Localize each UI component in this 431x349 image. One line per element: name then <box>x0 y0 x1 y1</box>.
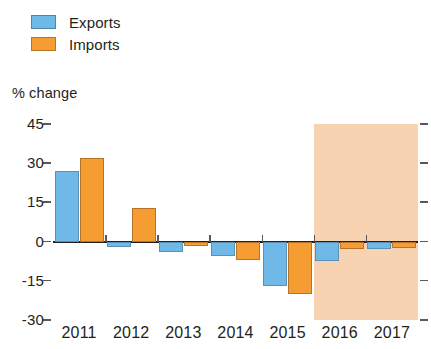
y-axis-tick-left <box>43 280 51 282</box>
legend-label-exports: Exports <box>69 15 121 30</box>
x-axis-label-2014: 2014 <box>209 324 261 342</box>
bar-exports-2017 <box>367 242 391 250</box>
legend-swatch-exports-icon <box>31 15 56 29</box>
bar-exports-2011 <box>55 171 79 242</box>
chart-legend: Exports Imports <box>31 11 231 55</box>
y-axis-tick-left <box>43 123 51 125</box>
x-axis-tick <box>209 235 211 242</box>
y-axis-tick-label: 15 <box>0 194 44 209</box>
y-axis-tick-label: 30 <box>0 155 44 170</box>
bar-imports-2011 <box>80 158 104 242</box>
bar-exports-2012 <box>107 242 131 247</box>
x-axis-labels: 2011201220132014201520162017 <box>53 324 418 346</box>
y-axis-title: % change <box>12 86 77 101</box>
legend-item-imports: Imports <box>31 33 231 55</box>
x-axis-tick <box>157 235 159 242</box>
y-axis-tick-right <box>420 319 428 321</box>
x-axis-label-2016: 2016 <box>314 324 366 342</box>
x-axis-label-2011: 2011 <box>53 324 105 342</box>
bar-imports-2014 <box>236 242 260 260</box>
forecast-shaded-region <box>314 124 418 320</box>
x-axis-tick <box>262 235 264 242</box>
y-axis-tick-label: 0 <box>0 234 44 249</box>
x-axis-label-2013: 2013 <box>157 324 209 342</box>
x-axis-label-2012: 2012 <box>105 324 157 342</box>
plot-area: 4530150-15-30 <box>53 120 418 320</box>
x-axis-tick <box>314 235 316 242</box>
legend-item-exports: Exports <box>31 11 231 33</box>
legend-label-imports: Imports <box>69 37 120 52</box>
bar-imports-2015 <box>288 242 312 294</box>
bar-imports-2016 <box>340 242 364 250</box>
bar-exports-2013 <box>159 242 183 252</box>
x-axis-tick <box>105 235 107 242</box>
y-axis-tick-right <box>420 241 428 243</box>
bar-chart: Exports Imports % change 4530150-15-30 2… <box>0 0 431 349</box>
y-axis-tick-right <box>420 280 428 282</box>
bar-imports-2012 <box>132 208 156 242</box>
bar-imports-2017 <box>392 242 416 249</box>
x-axis-tick <box>366 235 368 242</box>
y-axis-tick-label: -15 <box>0 273 44 288</box>
y-axis-tick-right <box>420 162 428 164</box>
y-axis-tick-label: 45 <box>0 116 44 131</box>
x-axis-label-2015: 2015 <box>262 324 314 342</box>
y-axis-tick-left <box>43 162 51 164</box>
y-axis-tick-label: -30 <box>0 312 44 327</box>
y-axis-tick-left <box>43 241 51 243</box>
y-axis-tick-right <box>420 201 428 203</box>
y-axis-tick-left <box>43 319 51 321</box>
bar-exports-2016 <box>315 242 339 262</box>
bar-imports-2013 <box>184 242 208 246</box>
y-axis-tick-right <box>420 123 428 125</box>
y-axis-tick-left <box>43 201 51 203</box>
bar-exports-2014 <box>211 242 235 256</box>
x-axis-label-2017: 2017 <box>366 324 418 342</box>
bar-exports-2015 <box>263 242 287 286</box>
legend-swatch-imports-icon <box>31 37 56 51</box>
